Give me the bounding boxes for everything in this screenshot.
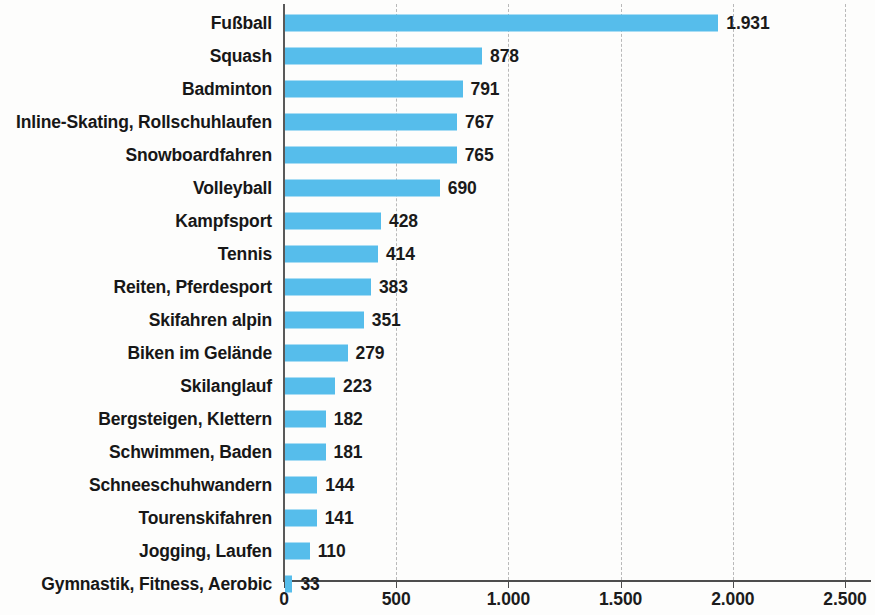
bar [285, 311, 364, 328]
category-label: Squash [210, 45, 272, 66]
bar-value-label: 791 [471, 78, 500, 99]
bar-value-label: 1.931 [726, 12, 769, 33]
category-label: Inline-Skating, Rollschuhlaufen [16, 111, 272, 132]
bar-row: Squash878 [0, 39, 875, 72]
bar-row: Schwimmen, Baden181 [0, 435, 875, 468]
bar-value-label: 351 [372, 309, 401, 330]
bar-row: Skilanglauf223 [0, 369, 875, 402]
bar-value-label: 690 [448, 177, 477, 198]
category-label: Snowboardfahren [125, 144, 272, 165]
category-label: Jogging, Laufen [139, 540, 272, 561]
bar-row: Fußball1.931 [0, 6, 875, 39]
bar [285, 179, 440, 196]
x-axis-tick-label: 0 [279, 589, 289, 610]
bar-value-label: 428 [389, 210, 418, 231]
bar-row: Tennis414 [0, 237, 875, 270]
category-label: Biken im Gelände [128, 342, 272, 363]
bar-row: Biken im Gelände279 [0, 336, 875, 369]
bar-value-label: 878 [490, 45, 519, 66]
x-axis-tick-label: 500 [382, 589, 411, 610]
bar-value-label: 110 [318, 540, 346, 561]
bar-row: Schneeschuhwandern144 [0, 468, 875, 501]
bar-row: Tourenskifahren141 [0, 501, 875, 534]
category-label: Bergsteigen, Klettern [98, 408, 272, 429]
bar-chart: Fußball1.931Squash878Badminton791Inline-… [0, 0, 875, 615]
category-label: Skifahren alpin [149, 309, 272, 330]
bar [285, 542, 310, 559]
bar [285, 80, 463, 97]
bar [285, 245, 378, 262]
bar-row: Volleyball690 [0, 171, 875, 204]
bar-value-label: 765 [465, 144, 494, 165]
x-axis-tick-label: 2.000 [711, 589, 754, 610]
bar [285, 146, 457, 163]
bar-row: Bergsteigen, Klettern182 [0, 402, 875, 435]
bar-value-label: 414 [386, 243, 415, 264]
bar-value-label: 383 [379, 276, 408, 297]
bar-row: Skifahren alpin351 [0, 303, 875, 336]
bar-row: Jogging, Laufen110 [0, 534, 875, 567]
bar [285, 377, 335, 394]
category-label: Gymnastik, Fitness, Aerobic [41, 573, 272, 594]
bar [285, 47, 482, 64]
bar [285, 410, 326, 427]
category-label: Tennis [218, 243, 272, 264]
bar-value-label: 181 [334, 441, 363, 462]
x-axis-tick-label: 1.500 [599, 589, 642, 610]
category-label: Reiten, Pferdesport [113, 276, 272, 297]
category-label: Schwimmen, Baden [109, 441, 272, 462]
bar-row: Kampfsport428 [0, 204, 875, 237]
x-axis-tick-label: 1.000 [487, 589, 530, 610]
bar-value-label: 144 [325, 474, 354, 495]
bar [285, 14, 718, 31]
bar-value-label: 33 [300, 573, 319, 594]
bar-value-label: 767 [465, 111, 494, 132]
bar-row: Snowboardfahren765 [0, 138, 875, 171]
bar-row: Badminton791 [0, 72, 875, 105]
category-label: Volleyball [193, 177, 272, 198]
bar-value-label: 223 [343, 375, 372, 396]
bar-value-label: 141 [325, 507, 354, 528]
bar-value-label: 279 [356, 342, 385, 363]
category-label: Schneeschuhwandern [89, 474, 272, 495]
bar-row: Reiten, Pferdesport383 [0, 270, 875, 303]
bar [285, 212, 381, 229]
category-label: Tourenskifahren [138, 507, 272, 528]
bar [285, 509, 317, 526]
x-axis-tick-label: 2.500 [823, 589, 866, 610]
bar [285, 278, 371, 295]
category-label: Badminton [182, 78, 272, 99]
category-label: Kampfsport [175, 210, 272, 231]
bar [285, 113, 457, 130]
bar-row: Inline-Skating, Rollschuhlaufen767 [0, 105, 875, 138]
bar-value-label: 182 [334, 408, 363, 429]
category-label: Skilanglauf [180, 375, 272, 396]
bar [285, 344, 348, 361]
bar [285, 476, 317, 493]
category-label: Fußball [211, 12, 272, 33]
bar [285, 443, 326, 460]
